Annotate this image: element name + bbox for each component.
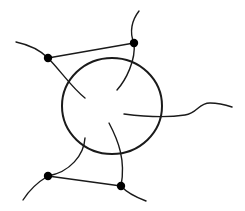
strand-top-right [117,11,139,90]
vertex-dot-bottom-left [44,172,52,180]
vertex-dot-bottom-right [117,182,125,190]
diagram-canvas [0,0,245,211]
strand-bottom-right [109,123,146,201]
edge-top-left-to-top-right [48,43,134,58]
strand-bottom-left [23,138,85,200]
strand-right [124,103,232,117]
edges-group [48,43,134,186]
central-circle [62,58,162,154]
strand-top-left [16,42,85,98]
edge-bottom-left-to-bottom-right [48,176,121,186]
vertex-dot-top-right [130,39,138,47]
vertex-dot-top-left [44,54,52,62]
